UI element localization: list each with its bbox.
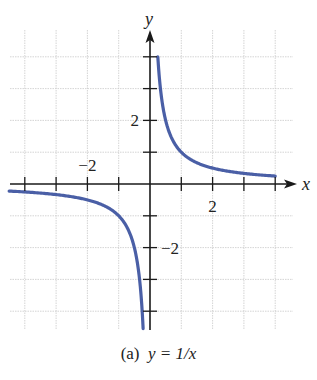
caption-prefix: (a) [121,344,140,363]
curves [9,57,275,329]
x-tick-label: 2 [208,197,217,216]
curve-branch [158,57,275,176]
caption-equation: y = 1/x [148,344,196,363]
y-tick-label: −2 [161,239,179,258]
grid-lines [10,30,293,330]
x-axis-label: x [301,174,310,194]
figure-caption: (a) y = 1/x [0,344,317,364]
curve-branch [9,191,143,328]
axes [10,30,297,330]
plot-area: −222−2 x y [0,0,317,340]
y-tick-label: 2 [131,111,140,130]
y-axis-label: y [143,9,153,29]
x-tick-label: −2 [78,156,96,175]
